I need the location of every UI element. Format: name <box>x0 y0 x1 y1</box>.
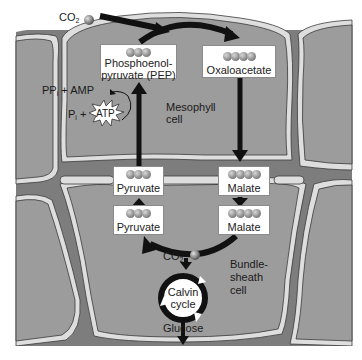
mesophyll-cell <box>61 12 293 162</box>
co2-input-label: CO2 <box>59 11 79 23</box>
pi-label: Pi + <box>68 108 86 120</box>
carbon-balls-4 <box>219 209 269 218</box>
pyruvate-label: Pyruvate <box>114 221 163 233</box>
co2-molecule-icon <box>84 15 94 25</box>
ppi-amp-label: PPi + AMP <box>42 84 94 96</box>
calvin-cycle-label: Calvin cycle <box>167 286 199 310</box>
pyruvate-label: Pyruvate <box>114 182 163 194</box>
pyruvate-bundle-box: Pyruvate <box>113 205 164 235</box>
pep-label-line2: pyruvate (PEP) <box>101 69 176 81</box>
co2-bundle-label: CO2 <box>163 250 183 262</box>
mesophyll-cell-label: Mesophyll cell <box>166 101 216 125</box>
malate-label: Malate <box>219 221 269 233</box>
carbon-balls-3 <box>114 170 163 179</box>
oxaloacetate-label: Oxaloacetate <box>203 64 275 76</box>
co2-molecule-icon <box>190 250 200 260</box>
carbon-balls-4 <box>203 52 275 61</box>
pyruvate-mesophyll-box: Pyruvate <box>113 166 164 196</box>
bundle-sheath-cell-label: Bundle- sheath cell <box>230 258 268 297</box>
malate-label: Malate <box>219 182 269 194</box>
right-upper-cell <box>297 20 352 170</box>
malate-bundle-box: Malate <box>218 205 270 235</box>
oxaloacetate-box: Oxaloacetate <box>202 45 276 78</box>
carbon-balls-3 <box>101 48 176 57</box>
glucose-label: Glucose <box>163 322 203 334</box>
left-upper-cell <box>16 34 59 184</box>
carbon-balls-4 <box>219 170 269 179</box>
pep-label-line1: Phosphoenol- <box>101 57 176 69</box>
carbon-balls-3 <box>114 209 163 218</box>
malate-mesophyll-box: Malate <box>218 166 270 196</box>
atp-label: ATP <box>96 108 115 120</box>
pep-box: Phosphoenol- pyruvate (PEP) <box>100 44 177 79</box>
